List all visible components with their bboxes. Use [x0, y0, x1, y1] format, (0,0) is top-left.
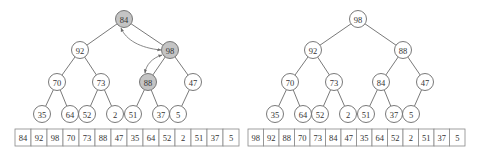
array-cell: 5: [450, 129, 466, 146]
node-value: 52: [316, 110, 325, 120]
node-value: 51: [362, 110, 371, 120]
node-value: 47: [421, 78, 430, 88]
array-cell: 64: [372, 129, 388, 146]
array-cell-value: 51: [422, 133, 431, 143]
tree-edge: [384, 90, 391, 106]
array-cell: 84: [326, 129, 342, 146]
tree-node: 98: [162, 42, 179, 59]
array-cell-value: 98: [51, 133, 60, 143]
swap-arrow-root: [121, 28, 161, 50]
array-cell-value: 92: [35, 133, 44, 143]
array-cell: 51: [419, 129, 435, 146]
array-cell: 47: [111, 129, 127, 146]
array-cell-value: 51: [195, 133, 204, 143]
array-cell-value: 5: [229, 133, 233, 143]
array-cell-value: 88: [99, 133, 108, 143]
array-cell-value: 37: [211, 133, 220, 143]
array-cell-value: 47: [345, 133, 354, 143]
node-value: 92: [309, 46, 318, 56]
array-cell: 92: [31, 129, 47, 146]
array-cell-value: 73: [314, 133, 323, 143]
node-value: 98: [354, 15, 363, 25]
node-value: 84: [377, 78, 386, 88]
tree-edge: [337, 90, 344, 106]
node-value: 64: [66, 110, 75, 120]
tree-edge: [87, 24, 117, 45]
tree-node: 70: [282, 74, 299, 91]
array-cell: 52: [159, 129, 175, 146]
array-cell-value: 52: [391, 133, 400, 143]
node-value: 70: [53, 78, 62, 88]
array-cell-value: 2: [409, 133, 413, 143]
array-cell-value: 70: [67, 133, 76, 143]
tree-node: 88: [395, 42, 412, 59]
tree-node: 64: [295, 106, 312, 123]
panel-after-swap: 9892887073844735645225137598928870738447…: [248, 11, 465, 147]
node-value: 35: [271, 110, 280, 120]
array-cell-value: 64: [147, 133, 156, 143]
array-cell-value: 84: [329, 133, 338, 143]
array-cell: 64: [143, 129, 159, 146]
node-value: 47: [189, 78, 198, 88]
array-cell-value: 88: [283, 133, 292, 143]
tree-edge: [293, 90, 300, 106]
tree-edge: [153, 57, 165, 75]
node-value: 5: [176, 110, 180, 120]
array-cell: 35: [127, 129, 143, 146]
tree-edges: [279, 24, 422, 106]
tree-edge: [62, 57, 75, 75]
node-value: 52: [83, 110, 92, 120]
tree-edge: [175, 57, 188, 75]
array-cell-value: 37: [438, 133, 447, 143]
tree-edge: [151, 90, 158, 106]
tree-edge: [85, 57, 97, 75]
array-cell-value: 35: [360, 133, 369, 143]
tree-node: 2: [340, 106, 357, 123]
tree-edge: [295, 57, 308, 75]
array-cell: 2: [403, 129, 419, 146]
tree-edge: [318, 57, 330, 75]
tree-edge: [279, 90, 287, 107]
tree-node: 92: [305, 42, 322, 59]
node-value: 37: [157, 110, 166, 120]
panel-before-swap: 8492987073884735645225137584929870738847…: [15, 11, 239, 147]
array-cell: 52: [388, 129, 404, 146]
array-cell: 73: [79, 129, 95, 146]
tree-node: 5: [403, 106, 420, 123]
tree-edge: [323, 90, 330, 106]
node-value: 88: [144, 78, 153, 88]
array-cell-value: 64: [376, 133, 385, 143]
array-cell: 88: [95, 129, 111, 146]
tree-edge: [131, 24, 163, 45]
node-value: 73: [330, 78, 339, 88]
node-value: 51: [129, 110, 138, 120]
tree-edge: [386, 57, 398, 75]
tree-node: 47: [417, 74, 434, 91]
tree-node: 52: [312, 106, 329, 123]
tree-edges: [46, 24, 190, 107]
array-cell: 47: [341, 129, 357, 146]
tree-node: 73: [93, 74, 110, 91]
tree-edge: [182, 90, 190, 107]
tree-node: 84: [373, 74, 390, 91]
array-cell-value: 98: [252, 133, 261, 143]
tree-node: 98: [350, 11, 367, 28]
node-value: 2: [113, 110, 117, 120]
tree-node: 92: [72, 42, 89, 59]
tree-edge: [90, 90, 97, 106]
node-value: 84: [120, 15, 129, 25]
tree-edge: [414, 90, 421, 106]
tree-node: 37: [153, 106, 170, 123]
node-value: 88: [399, 46, 408, 56]
tree-node: 52: [79, 106, 96, 123]
tree-node: 37: [386, 106, 403, 123]
tree-node: 64: [62, 106, 79, 123]
tree-node: 84: [116, 11, 133, 28]
swap-arrows: [121, 28, 162, 73]
array-cell: 98: [47, 129, 63, 146]
tree-nodes: 84929870738847356452251375: [34, 11, 202, 123]
array-cell-value: 92: [267, 133, 276, 143]
array-cell: 70: [295, 129, 311, 146]
tree-node: 73: [326, 74, 343, 91]
node-value: 5: [409, 110, 413, 120]
